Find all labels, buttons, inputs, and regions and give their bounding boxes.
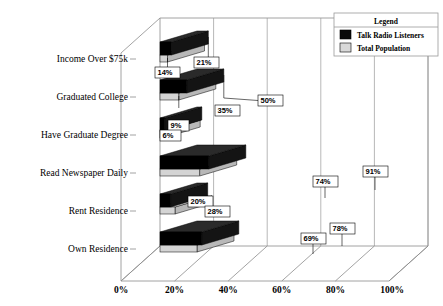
- xtick-label-80: 80%: [326, 285, 345, 295]
- category-label-have-graduate-degree: Have Graduate Degree: [41, 130, 128, 140]
- xtick-label-100: 100%: [380, 285, 404, 295]
- legend[interactable]: Legend Talk Radio Listeners Total Popula…: [334, 13, 438, 56]
- legend-swatch-talk-radio-listeners: [340, 30, 351, 39]
- value-label-income-total-population: 14%: [158, 68, 173, 77]
- xtick-label-60: 60%: [272, 285, 291, 295]
- value-label-college-total-population: 35%: [218, 106, 233, 115]
- chart-container: 21% 14% 50% 35% 9% 6% 91% 74%: [0, 0, 443, 306]
- bar-own-residence-talk-radio: [160, 232, 202, 245]
- legend-label-total-population[interactable]: Total Population: [357, 44, 411, 53]
- bar-rent-residence-talk-radio: [160, 194, 171, 207]
- value-label-newspaper-talk-radio: 91%: [366, 167, 381, 176]
- value-label-own-talk-radio: 78%: [333, 224, 348, 233]
- value-label-graddegree-total-population: 6%: [163, 131, 174, 140]
- value-label-own-total-population: 69%: [304, 234, 319, 243]
- bar-graduated-college-talk-radio: [160, 80, 187, 93]
- category-label-read-newspaper-daily: Read Newspaper Daily: [40, 168, 128, 178]
- value-label-income-talk-radio: 21%: [197, 58, 212, 67]
- category-label-income-over-75k: Income Over $75k: [57, 54, 128, 64]
- bar-chart-3d: 21% 14% 50% 35% 9% 6% 91% 74%: [0, 0, 443, 306]
- value-label-rent-talk-radio: 20%: [191, 197, 206, 206]
- value-label-graddegree-talk-radio: 9%: [171, 121, 182, 130]
- xtick-label-20: 20%: [165, 285, 184, 295]
- legend-title: Legend: [374, 17, 399, 26]
- bar-rent-residence-total-population: [160, 207, 175, 214]
- bar-own-residence-total-population: [160, 245, 197, 252]
- legend-label-talk-radio-listeners[interactable]: Talk Radio Listeners: [357, 31, 424, 40]
- xtick-label-0: 0%: [114, 285, 128, 295]
- value-label-rent-total-population: 28%: [208, 207, 223, 216]
- category-label-own-residence: Own Residence: [68, 244, 128, 254]
- bar-income-over-75k-total-population: [160, 55, 168, 62]
- bar-read-newspaper-daily-total-population: [160, 169, 200, 176]
- bar-income-over-75k-talk-radio: [160, 42, 171, 55]
- bar-read-newspaper-daily-talk-radio: [160, 156, 209, 169]
- value-axis: 0% 20% 40% 60% 80% 100%: [114, 285, 404, 295]
- value-label-college-talk-radio: 50%: [261, 96, 276, 105]
- category-label-rent-residence: Rent Residence: [69, 206, 128, 216]
- bar-graduated-college-total-population: [160, 93, 179, 100]
- legend-swatch-total-population: [340, 43, 351, 52]
- bar-have-graduate-degree-talk-radio: [160, 118, 165, 131]
- xtick-label-40: 40%: [219, 285, 238, 295]
- value-label-newspaper-total-population: 74%: [316, 177, 331, 186]
- category-label-graduated-college: Graduated College: [57, 92, 129, 102]
